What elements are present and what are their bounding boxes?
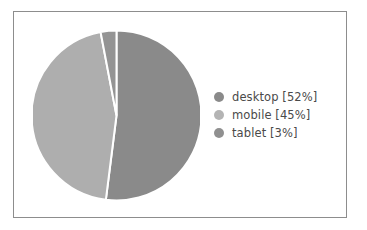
legend-swatch-tablet (214, 128, 224, 138)
pie-slice-mobile (33, 32, 117, 200)
legend-swatch-desktop (214, 92, 224, 102)
pie-graphic (33, 29, 200, 202)
legend-swatch-mobile (214, 110, 224, 120)
figure-frame: desktop [52%] mobile [45%] tablet [3%] (13, 11, 347, 218)
plot-area: desktop [52%] mobile [45%] tablet [3%] (14, 12, 348, 219)
legend-item-mobile: mobile [45%] (214, 106, 344, 124)
legend-label-tablet: tablet [3%] (232, 124, 298, 142)
legend-item-tablet: tablet [3%] (214, 124, 344, 142)
legend-item-desktop: desktop [52%] (214, 88, 344, 106)
pie-slice-desktop (106, 31, 200, 201)
legend-label-desktop: desktop [52%] (232, 88, 317, 106)
pie-chart-figure: desktop [52%] mobile [45%] tablet [3%] (0, 0, 367, 230)
legend: desktop [52%] mobile [45%] tablet [3%] (214, 88, 344, 142)
legend-label-mobile: mobile [45%] (232, 106, 310, 124)
pie-svg (33, 29, 200, 202)
